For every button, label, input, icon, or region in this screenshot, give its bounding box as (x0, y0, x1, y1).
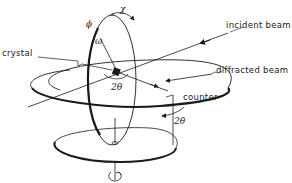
phi-label: ϕ (86, 19, 92, 29)
diffracted-beam-label: diffracted beam (216, 65, 288, 75)
chi-circle (88, 15, 136, 145)
lower-disc (54, 128, 177, 162)
diffracted-beam-arrow (166, 74, 212, 81)
crystal-sample (112, 67, 121, 76)
counter-label: counter (183, 92, 218, 102)
crystal-label: crystal (2, 48, 33, 58)
two-theta-label-center: 2θ (110, 82, 123, 92)
phi-axis (100, 38, 117, 71)
two-theta-label-counter: 2θ (173, 116, 186, 126)
omega-label: ω (95, 36, 103, 46)
diffractometer-diagram: ω crystal incident beam diffracted beam … (0, 0, 292, 183)
incident-beam-label: incident beam (226, 20, 291, 30)
diffracted-beam-line (117, 72, 168, 91)
chi-label: χ (119, 4, 126, 14)
